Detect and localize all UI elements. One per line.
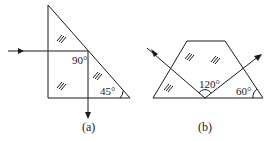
angle-label-90: 90° [72,55,87,66]
reflected-arrow-icon [85,112,91,119]
angle-label-60: 60° [236,86,251,97]
angle-label-120: 120° [199,79,220,90]
incident-arrow-icon [18,48,24,54]
angle-label-45: 45° [100,86,115,97]
angle-arc-45 [120,91,123,98]
prism-diagrams [0,0,270,141]
angle-arc-60 [253,89,257,98]
angle-arc-120 [199,90,211,93]
exit-arrow-icon-b [254,54,262,61]
figure-a [8,5,130,119]
caption-b: (b) [198,121,212,133]
caption-a: (a) [82,121,95,133]
